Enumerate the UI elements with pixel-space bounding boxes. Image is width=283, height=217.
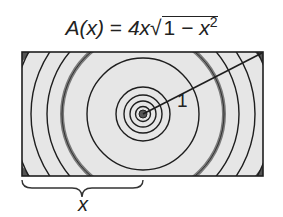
radius-label: 1	[177, 90, 188, 112]
width-label: x	[72, 193, 94, 216]
inscribed-rectangle-diagram	[0, 0, 283, 217]
rectangle	[13, 0, 273, 217]
